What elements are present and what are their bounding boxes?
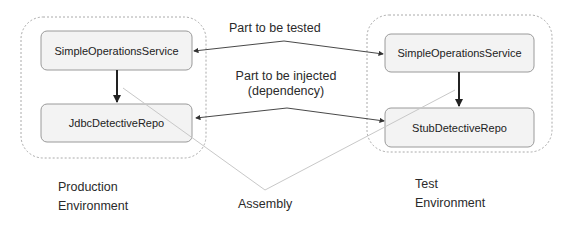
production-environment-label: Production Environment [58,180,128,214]
production-label-line2: Environment [58,199,128,214]
test-service-label: SimpleOperationsService [385,34,534,72]
test-label-line2: Environment [415,196,485,211]
injected-arrow-left [196,108,287,118]
injected-label-line1: Part to be injected [224,69,348,84]
production-label-line1: Production [58,180,128,195]
assembly-label: Assembly [238,197,292,212]
injected-arrow-right [287,108,384,121]
injected-label-line2: (dependency) [224,84,348,99]
tested-arrow-left [194,41,284,51]
test-repo-label: StubDetectiveRepo [385,108,534,147]
prod-repo-label: JdbcDetectiveRepo [41,104,192,142]
prod-service-label: SimpleOperationsService [41,31,192,70]
injected-label: Part to be injected (dependency) [224,69,348,99]
tested-label: Part to be tested [229,21,321,36]
test-label-line1: Test [415,177,485,192]
test-environment-label: Test Environment [415,177,485,211]
tested-arrow-right [284,41,383,54]
